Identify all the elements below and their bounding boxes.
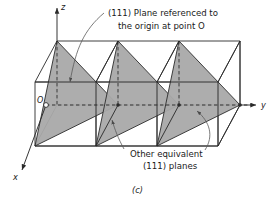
origin-marker [44,103,49,108]
vertex-dot-1 [116,103,120,107]
plane-111-equivalent-2 [157,41,240,146]
axis-label-x: x [12,172,18,182]
crystal-plane-figure: (111) Plane referenced to the origin at … [0,0,277,203]
axis-label-y: y [260,100,266,110]
figure-caption: (c) [132,185,143,195]
annotation-equivalent-planes-line1: Other equivalent [130,149,203,159]
axis-label-z: z [60,2,66,12]
vertex-dot-2 [177,103,181,107]
annotation-primary-plane-line1: (111) Plane referenced to [108,8,218,18]
depth-top-3-over [218,41,240,82]
annotation-primary-plane-line2: the origin at point O [118,21,205,31]
annotation-equivalent-planes-line2: (111) planes [143,161,198,171]
origin-label: O [37,96,43,105]
vertex-dot-3 [238,103,242,107]
